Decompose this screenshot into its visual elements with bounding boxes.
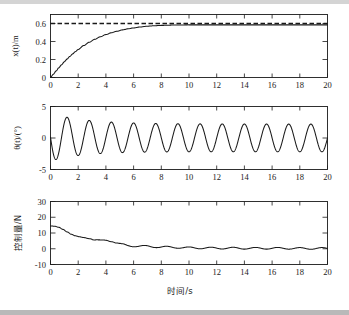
panel-control-xtick-2: 4 <box>104 267 109 277</box>
panel-control-frame <box>51 202 328 265</box>
panel-control-ytick-2: 10 <box>38 228 47 238</box>
panel-position-xticklabels: 0 2 4 6 8 10 12 14 16 18 20 <box>48 80 331 90</box>
panel-position: 0.6 0.4 0.2 0 <box>10 15 332 91</box>
panel-angle-ytick-2: 5 <box>42 102 46 112</box>
panel-position-xtick-6: 12 <box>212 80 221 90</box>
panel-position-xtick-10: 20 <box>323 80 332 90</box>
panel-position-xtick-2: 4 <box>104 80 109 90</box>
panel-control-yticks <box>51 202 328 265</box>
panel-angle-xtick-5: 10 <box>185 172 194 182</box>
panel-control-series-line <box>51 226 328 249</box>
panel-position-xtick-5: 10 <box>185 80 194 90</box>
panel-control-xtick-6: 12 <box>212 267 221 277</box>
panel-control-ytick-0: -10 <box>35 260 46 270</box>
panel-angle-xtick-1: 2 <box>76 172 80 182</box>
panel-angle-yticks <box>51 107 328 170</box>
panel-angle-ytick-0: -5 <box>39 165 46 175</box>
panel-control: 30 20 10 0 -10 <box>13 197 332 278</box>
panel-position-xtick-9: 18 <box>296 80 305 90</box>
panel-angle-xtick-8: 16 <box>268 172 277 182</box>
panel-control-xtick-9: 18 <box>296 267 305 277</box>
panel-position-xtick-3: 6 <box>131 80 135 90</box>
panel-control-xtick-1: 2 <box>76 267 80 277</box>
panel-position-xtick-0: 0 <box>48 80 52 90</box>
panel-angle-xtick-6: 12 <box>212 172 221 182</box>
panel-control-xticklabels: 0 2 4 6 8 10 12 14 16 18 20 <box>48 267 331 277</box>
panel-control-xtick-3: 6 <box>131 267 135 277</box>
scan-band-top <box>0 0 349 4</box>
panel-angle-ylabel: θ(t)/(°) <box>12 126 22 150</box>
panel-control-xtick-0: 0 <box>48 267 52 277</box>
panel-angle: 5 0 -5 <box>12 102 332 183</box>
panel-control-xtick-8: 16 <box>268 267 277 277</box>
panel-control-xticks <box>51 202 328 265</box>
panel-position-ytick-1: 0.2 <box>35 55 46 65</box>
panel-control-ytick-3: 20 <box>38 212 47 222</box>
panel-control-ytick-1: 0 <box>42 244 46 254</box>
panel-angle-xtick-4: 8 <box>159 172 163 182</box>
panel-position-ylabel: x(t)/m <box>10 35 20 57</box>
panel-angle-frame <box>51 107 328 170</box>
panel-position-ytick-0: 0 <box>42 73 46 83</box>
panel-control-xtick-4: 8 <box>159 267 163 277</box>
panel-angle-xticks <box>51 107 328 170</box>
panel-position-xtick-4: 8 <box>159 80 163 90</box>
panel-angle-series-line <box>51 117 328 159</box>
panel-angle-xtick-0: 0 <box>48 172 52 182</box>
panel-control-ylabel: 控制量/N <box>13 215 23 251</box>
panel-control-xtick-7: 14 <box>240 267 249 277</box>
panel-control-xtick-10: 20 <box>323 267 332 277</box>
scan-band-bottom <box>0 310 349 315</box>
panel-angle-xtick-3: 6 <box>131 172 135 182</box>
panel-position-ytick-2: 0.4 <box>35 37 46 47</box>
panel-angle-xtick-9: 18 <box>296 172 305 182</box>
panel-angle-ytick-1: 0 <box>42 133 46 143</box>
panel-position-xtick-1: 2 <box>76 80 80 90</box>
figure-xlabel: 时间/s <box>167 286 193 296</box>
three-panel-simulation-chart: 0.6 0.4 0.2 0 <box>0 0 349 315</box>
panel-position-yticks <box>51 24 328 78</box>
panel-position-xtick-7: 14 <box>240 80 249 90</box>
panel-position-ytick-3: 0.6 <box>35 19 46 29</box>
panel-angle-xticklabels: 0 2 4 6 8 10 12 14 16 18 20 <box>48 172 331 182</box>
panel-control-ytick-4: 30 <box>38 197 47 207</box>
panel-angle-xtick-7: 14 <box>240 172 249 182</box>
panel-position-xtick-8: 16 <box>268 80 277 90</box>
panel-control-xtick-5: 10 <box>185 267 194 277</box>
panel-angle-xtick-10: 20 <box>323 172 332 182</box>
panel-angle-xtick-2: 4 <box>104 172 109 182</box>
figure-container: 0.6 0.4 0.2 0 <box>0 0 349 315</box>
panel-position-series-line <box>51 25 328 78</box>
